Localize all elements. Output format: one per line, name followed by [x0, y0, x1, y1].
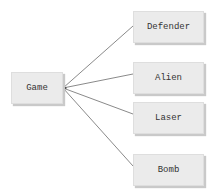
- node-alien[interactable]: Alien: [133, 62, 204, 94]
- node-label: Alien: [155, 73, 182, 83]
- edge-game-laser: [63, 88, 133, 114]
- node-defender[interactable]: Defender: [133, 11, 204, 43]
- edge-game-defender: [63, 26, 133, 88]
- node-bomb[interactable]: Bomb: [133, 154, 204, 186]
- edge-game-bomb: [63, 88, 133, 166]
- node-label: Game: [26, 83, 48, 93]
- edge-game-alien: [63, 74, 133, 88]
- class-diagram: Game Defender Alien Laser Bomb: [0, 0, 214, 193]
- node-game[interactable]: Game: [11, 72, 63, 104]
- node-label: Bomb: [158, 165, 180, 175]
- node-label: Laser: [155, 113, 182, 123]
- node-label: Defender: [147, 22, 190, 32]
- node-laser[interactable]: Laser: [133, 102, 204, 134]
